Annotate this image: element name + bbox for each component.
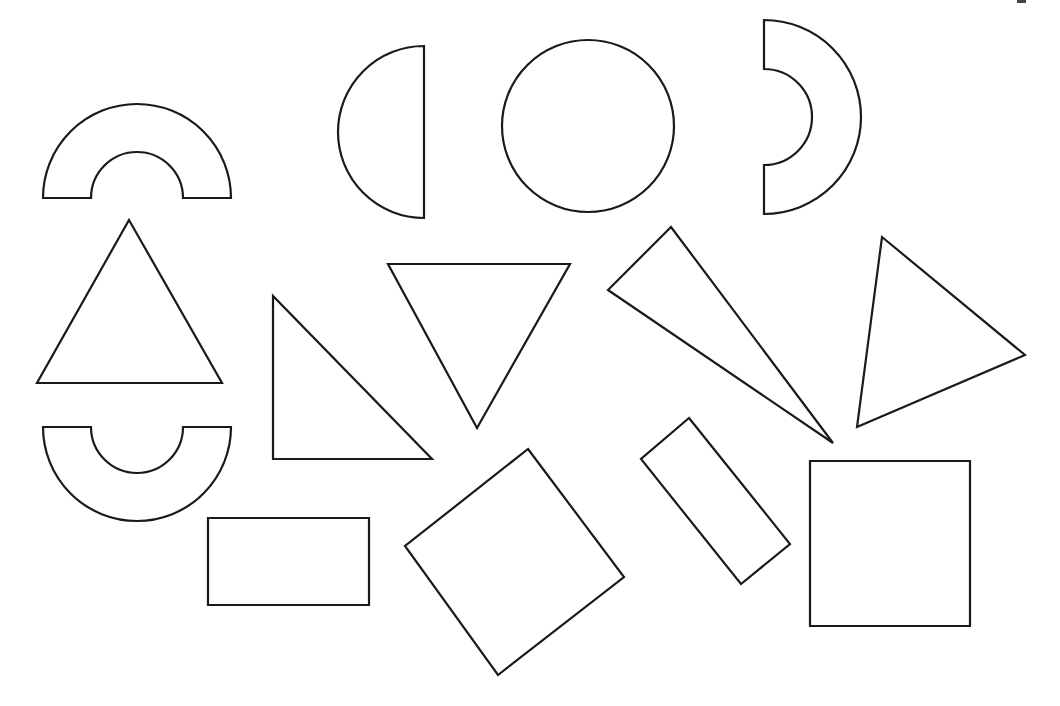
shape-triangle-scalene	[857, 237, 1025, 427]
shape-triangle-inverted	[388, 264, 570, 428]
shape-rectangle-horizontal	[208, 518, 369, 605]
shape-arch-top-left	[43, 104, 231, 198]
shape-arch-bottom-left	[43, 427, 231, 521]
shape-square	[810, 461, 970, 626]
shapes-canvas	[0, 0, 1060, 706]
shape-arch-right	[764, 20, 861, 214]
shape-square-rotated	[405, 449, 624, 675]
shape-rectangle-rotated	[641, 418, 790, 584]
shape-triangle-thin	[608, 227, 833, 443]
shape-half-disc	[338, 46, 424, 218]
shape-triangle-equilateral	[37, 220, 222, 383]
shape-triangle-right	[273, 296, 432, 459]
shape-circle	[502, 40, 674, 212]
